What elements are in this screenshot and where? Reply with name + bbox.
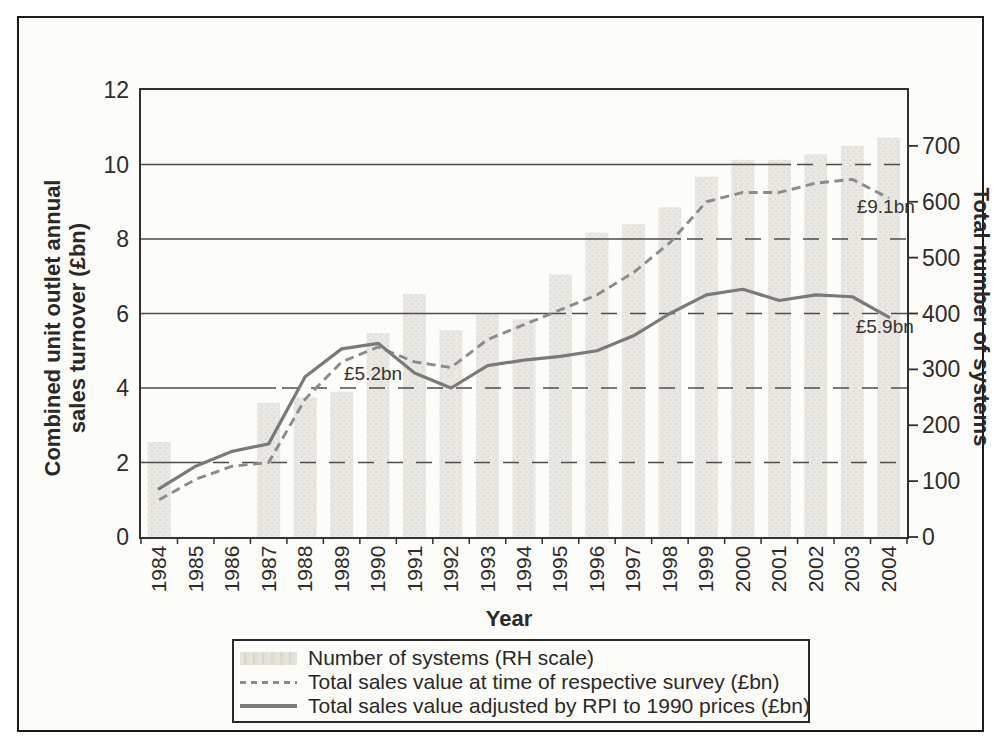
x-axis-label-1987: 1987	[258, 537, 280, 601]
bar-2001	[768, 160, 791, 537]
legend-item-systems: Number of systems (RH scale)	[234, 646, 808, 670]
y-axis-label-0: 0	[75, 525, 129, 549]
bar-1988	[294, 397, 317, 537]
x-axis-label-1991: 1991	[404, 537, 426, 601]
x-axis-label-2002: 2002	[805, 537, 827, 601]
y-axis-label-4: 4	[75, 376, 129, 400]
x-axis-label-1985: 1985	[185, 537, 207, 601]
x-axis-label-1999: 1999	[695, 537, 717, 601]
x-axis-label-2000: 2000	[732, 537, 754, 601]
bar-1998	[658, 207, 681, 537]
y-axis-label-12: 12	[75, 78, 129, 102]
plot-area	[141, 90, 907, 537]
bar-1999	[695, 177, 718, 537]
x-axis-label-2003: 2003	[841, 537, 863, 601]
right-axis-label-200: 200	[922, 413, 992, 437]
bar-swatch-icon	[240, 652, 297, 665]
x-axis-label-1998: 1998	[659, 537, 681, 601]
solid-line-swatch-icon	[240, 704, 297, 708]
x-axis-label-1992: 1992	[440, 537, 462, 601]
scanned-chart-page: { "colors": { "ink": "#2f2d2b", "frame":…	[0, 0, 1002, 745]
right-axis-label-400: 400	[922, 302, 992, 326]
x-axis-label-1995: 1995	[549, 537, 571, 601]
figure-frame: Combined unit outlet annual sales turnov…	[17, 16, 984, 732]
annotation-2: £5.9bn	[856, 316, 914, 338]
legend: Number of systems (RH scale) Total sales…	[232, 639, 810, 723]
annotation-1: £9.1bn	[857, 196, 915, 218]
x-axis-title: Year	[359, 606, 659, 632]
right-axis-label-600: 600	[922, 190, 992, 214]
annotation-0: £5.2bn	[344, 363, 402, 385]
bar-1991	[403, 294, 426, 537]
legend-item-nominal-sales: Total sales value at time of respective …	[234, 670, 808, 694]
right-axis-label-700: 700	[922, 134, 992, 158]
x-axis-label-1986: 1986	[221, 537, 243, 601]
x-axis-label-2004: 2004	[878, 537, 900, 601]
left-axis-title-line2: sales turnover (£bn)	[65, 223, 90, 433]
bar-1996	[585, 232, 608, 537]
x-axis-label-1988: 1988	[294, 537, 316, 601]
y-axis-label-6: 6	[75, 302, 129, 326]
x-axis-label-1990: 1990	[367, 537, 389, 601]
left-axis-title-line1: Combined unit outlet annual	[40, 180, 65, 477]
left-axis-title: Combined unit outlet annual sales turnov…	[40, 118, 92, 538]
x-axis-label-1984: 1984	[148, 537, 170, 601]
right-axis-label-100: 100	[922, 469, 992, 493]
x-axis-label-1993: 1993	[477, 537, 499, 601]
legend-item-adjusted-sales: Total sales value adjusted by RPI to 199…	[234, 694, 808, 718]
bar-2002	[804, 154, 827, 537]
x-axis-label-1994: 1994	[513, 537, 535, 601]
y-axis-label-2: 2	[75, 451, 129, 475]
legend-label-adjusted-sales: Total sales value adjusted by RPI to 199…	[308, 694, 810, 718]
bar-2000	[731, 160, 754, 537]
right-axis-label-500: 500	[922, 246, 992, 270]
x-axis-label-1997: 1997	[622, 537, 644, 601]
x-axis-label-1996: 1996	[586, 537, 608, 601]
dashed-line-swatch-icon	[240, 681, 297, 684]
bar-1994	[513, 319, 536, 537]
bar-1987	[257, 403, 280, 537]
right-axis-label-300: 300	[922, 357, 992, 381]
legend-label-nominal-sales: Total sales value at time of respective …	[308, 670, 780, 694]
legend-label-systems: Number of systems (RH scale)	[308, 646, 594, 670]
x-axis-label-2001: 2001	[768, 537, 790, 601]
right-axis-label-0: 0	[922, 525, 992, 549]
y-axis-label-8: 8	[75, 227, 129, 251]
x-axis-label-1989: 1989	[331, 537, 353, 601]
bar-1989	[330, 392, 353, 537]
y-axis-label-10: 10	[75, 153, 129, 177]
